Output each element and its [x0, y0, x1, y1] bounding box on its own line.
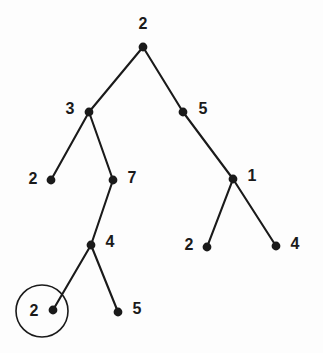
- tree-node-dot[interactable]: [85, 108, 94, 117]
- tree-edge: [91, 245, 118, 312]
- tree-node-label: 4: [106, 233, 115, 250]
- tree-node-label: 4: [291, 235, 300, 252]
- tree-node-dot[interactable]: [114, 308, 123, 317]
- tree-edge: [51, 112, 89, 180]
- tree-node-label: 1: [248, 167, 257, 184]
- tree-canvas: 23527142425: [0, 0, 323, 353]
- tree-edge: [233, 179, 276, 246]
- tree-edge: [207, 179, 233, 247]
- tree-edge: [89, 112, 113, 180]
- tree-node-label: 7: [128, 169, 137, 186]
- tree-node-dot[interactable]: [179, 108, 188, 117]
- tree-node-label: 2: [30, 302, 39, 319]
- tree-node-label: 5: [133, 300, 142, 317]
- tree-node-label: 5: [199, 100, 208, 117]
- tree-node-dot[interactable]: [109, 176, 118, 185]
- tree-node-label: 2: [139, 15, 148, 32]
- tree-node-label: 2: [185, 236, 194, 253]
- tree-node-dot[interactable]: [272, 242, 281, 251]
- tree-highlight-group: [16, 285, 68, 337]
- tree-edge: [143, 47, 183, 112]
- tree-diagram-figure: 23527142425: [0, 0, 323, 353]
- tree-node-dot[interactable]: [49, 306, 58, 315]
- tree-node-dot[interactable]: [87, 241, 96, 250]
- tree-edge: [89, 47, 143, 112]
- tree-node-dot[interactable]: [229, 175, 238, 184]
- tree-node-dot[interactable]: [203, 243, 212, 252]
- tree-node-dot[interactable]: [47, 176, 56, 185]
- tree-nodes-group: [47, 43, 281, 317]
- highlight-circle: [16, 285, 68, 337]
- tree-node-label: 3: [66, 100, 75, 117]
- tree-edge: [183, 112, 233, 179]
- tree-node-dot[interactable]: [139, 43, 148, 52]
- tree-node-label: 2: [29, 170, 38, 187]
- tree-labels-group: 23527142425: [29, 15, 300, 319]
- tree-edges-group: [51, 47, 276, 312]
- tree-edge: [53, 245, 91, 310]
